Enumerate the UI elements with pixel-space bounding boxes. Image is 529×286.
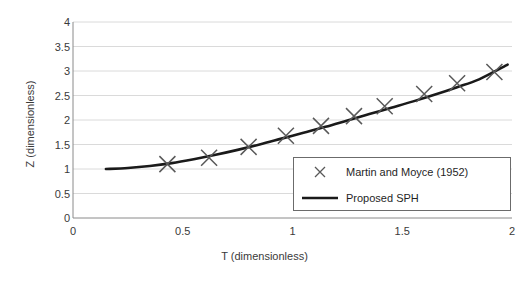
x-tick-label: 2 <box>492 226 529 236</box>
x-tick-label: 0.5 <box>163 226 203 236</box>
line-swatch-icon <box>294 193 346 203</box>
x-axis-title: T (dimensionless) <box>0 250 529 262</box>
chart-container: 00.511.522.533.54 00.511.52 Z (dimension… <box>0 0 529 286</box>
x-tick-label: 1 <box>273 226 313 236</box>
x-tick-label: 1.5 <box>382 226 422 236</box>
legend-label-proposed-sph: Proposed SPH <box>346 192 419 204</box>
x-marker-icon <box>294 165 346 179</box>
y-axis-title: Z (dimensionless) <box>24 34 36 214</box>
x-axis-ticks: 00.511.52 <box>0 0 529 286</box>
x-tick-label: 0 <box>53 226 93 236</box>
legend-item-martin-and-moyce: Martin and Moyce (1952) <box>294 158 510 185</box>
legend-item-proposed-sph: Proposed SPH <box>294 184 510 211</box>
legend-label-martin-and-moyce: Martin and Moyce (1952) <box>346 166 468 178</box>
legend: Martin and Moyce (1952) Proposed SPH <box>293 157 511 211</box>
